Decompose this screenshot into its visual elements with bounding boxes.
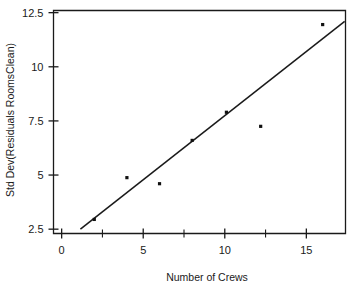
data-point bbox=[225, 111, 228, 114]
y-tick-label: 12.5 bbox=[22, 7, 43, 19]
x-tick-label: 15 bbox=[300, 244, 312, 256]
chart-figure: 2.557.51012.5 051015 Number of Crews Std… bbox=[0, 0, 360, 286]
y-tick-label: 7.5 bbox=[28, 115, 43, 127]
data-point bbox=[259, 125, 262, 128]
regression-line bbox=[80, 21, 344, 229]
x-tick-label: 10 bbox=[219, 244, 231, 256]
y-tick-label: 10 bbox=[31, 61, 43, 73]
y-tick-label: 2.5 bbox=[28, 223, 43, 235]
x-tick-label: 5 bbox=[140, 244, 146, 256]
x-tick-label: 0 bbox=[59, 244, 65, 256]
y-axis-title: Std Dev(Residuals RoomsClean) bbox=[4, 43, 16, 197]
data-point bbox=[93, 218, 96, 221]
x-axis-ticks: 051015 bbox=[59, 229, 313, 256]
y-tick-label: 5 bbox=[37, 169, 43, 181]
data-point bbox=[191, 139, 194, 142]
scatter-plot-svg: 2.557.51012.5 051015 Number of Crews Std… bbox=[0, 0, 360, 286]
plot-frame bbox=[54, 11, 346, 234]
data-point bbox=[125, 176, 128, 179]
x-axis-title: Number of Crews bbox=[166, 271, 248, 283]
data-point bbox=[321, 23, 324, 26]
data-point bbox=[158, 182, 161, 185]
